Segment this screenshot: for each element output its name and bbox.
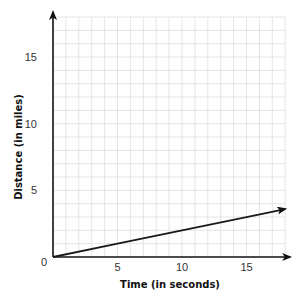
y-tick-label: 10: [25, 118, 37, 130]
x-tick-label: 15: [240, 261, 252, 273]
axes: [53, 12, 290, 257]
x-tick-label: 5: [114, 261, 120, 273]
origin-label: 0: [41, 256, 47, 268]
y-tick-label: 15: [25, 51, 37, 63]
y-tick-label: 5: [31, 184, 37, 196]
x-axis-label: Time (in seconds): [120, 279, 220, 290]
grid: [53, 17, 285, 257]
y-axis-label: Distance (in miles): [13, 94, 24, 200]
line-chart: 5101551015 0 Time (in seconds) Distance …: [0, 0, 304, 304]
x-tick-label: 10: [176, 261, 188, 273]
